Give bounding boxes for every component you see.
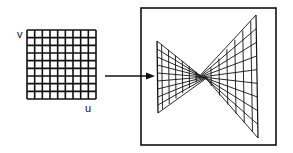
cross-section-line <box>227 49 228 104</box>
ruled-surface <box>157 15 258 138</box>
cross-section-line <box>162 45 163 110</box>
v-axis-label: v <box>17 28 23 40</box>
ruling-line <box>201 29 257 76</box>
ruling-line <box>205 78 257 124</box>
cross-section-line <box>243 31 245 123</box>
cross-section-line <box>251 21 253 132</box>
ruling-line <box>158 79 206 114</box>
cross-section-line <box>175 55 176 98</box>
diagram-canvas: v u <box>0 0 293 153</box>
surface-right-edge <box>256 15 258 138</box>
u-axis-label: u <box>85 102 91 114</box>
ruling-line <box>158 78 205 105</box>
mapping-arrow-icon <box>105 73 155 80</box>
ruling-line <box>157 49 201 76</box>
cross-section-line <box>219 58 220 95</box>
uv-parameter-grid <box>27 30 96 99</box>
surface-left-edge <box>157 41 158 113</box>
cross-section-line <box>169 50 170 104</box>
cross-section-line <box>235 40 236 114</box>
arrow-head-icon <box>146 73 155 80</box>
